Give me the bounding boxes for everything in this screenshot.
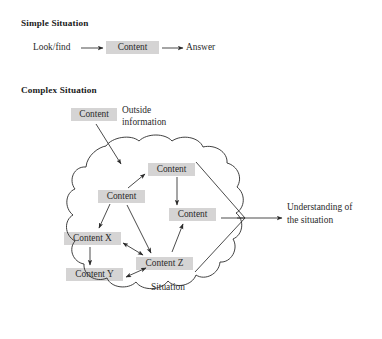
outside-information-line-2: information [122, 117, 166, 127]
arrow-middle-left-to-top-right [128, 174, 145, 188]
node-content-mid-right: Content [169, 208, 216, 221]
arrow-content-z-to-mid-right [172, 224, 183, 252]
simple-source-label: Look/find [33, 42, 71, 54]
understanding-outcome-label: Understanding of the situation [287, 201, 352, 227]
understanding-line-2: the situation [287, 214, 352, 227]
arrow-outside-content-into-cloud [96, 124, 121, 164]
node-content-middle-left: Content [98, 190, 145, 203]
outside-content-box: Content [71, 108, 117, 121]
situation-label: Situation [151, 282, 185, 294]
node-content-y: Content Y [66, 268, 123, 281]
simple-content-box: Content [106, 41, 159, 54]
line-content-z-to-convergence [195, 218, 245, 272]
node-content-top-right: Content [148, 163, 195, 176]
heading-complex-situation: Complex Situation [21, 85, 97, 95]
diagram-figure: Simple Situation Complex Situation Look/… [0, 0, 382, 339]
arrow-content-x-to-content-z [123, 243, 143, 255]
heading-simple-situation: Simple Situation [21, 18, 89, 28]
outside-information-label: Outside information [122, 105, 166, 128]
understanding-line-1: Understanding of [287, 201, 352, 214]
node-content-z: Content Z [136, 257, 193, 270]
arrow-middle-left-to-content-z [127, 205, 151, 253]
outside-information-line-1: Outside [122, 105, 151, 115]
simple-answer-label: Answer [186, 42, 215, 54]
node-content-x: Content X [64, 232, 121, 245]
arrow-middle-left-to-content-x [99, 204, 110, 228]
